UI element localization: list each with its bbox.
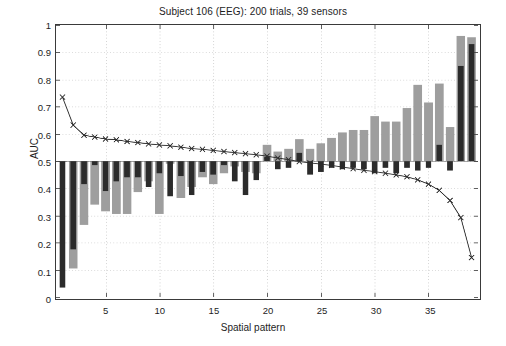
- x-tick-label: 5: [91, 305, 121, 316]
- figure: Subject 106 (EEG): 200 trials, 39 sensor…: [0, 0, 506, 346]
- x-axis-ticks: 5101520253035: [55, 301, 481, 319]
- y-tick-label: 0.3: [5, 211, 51, 222]
- y-tick-label: 0.8: [5, 74, 51, 85]
- chart-canvas: [56, 25, 480, 299]
- y-tick-label: 0.9: [5, 47, 51, 58]
- y-tick-label: 0.4: [5, 184, 51, 195]
- y-tick-label: 1: [5, 20, 51, 31]
- y-tick-label: 0.5: [5, 157, 51, 168]
- chart-title: Subject 106 (EEG): 200 trials, 39 sensor…: [0, 6, 506, 17]
- x-tick-label: 10: [145, 305, 175, 316]
- y-tick-label: 0.1: [5, 266, 51, 277]
- x-axis-label: Spatial pattern: [0, 322, 506, 333]
- x-tick-label: 15: [199, 305, 229, 316]
- y-axis-ticks: 00.10.20.30.40.50.60.70.80.91: [0, 24, 51, 300]
- y-tick-label: 0.2: [5, 239, 51, 250]
- x-tick-label: 20: [253, 305, 283, 316]
- plot-area: [55, 24, 481, 300]
- y-tick-label: 0.7: [5, 102, 51, 113]
- x-tick-label: 25: [307, 305, 337, 316]
- y-tick-label: 0: [5, 294, 51, 305]
- x-tick-label: 35: [415, 305, 445, 316]
- y-tick-label: 0.6: [5, 129, 51, 140]
- x-tick-label: 30: [361, 305, 391, 316]
